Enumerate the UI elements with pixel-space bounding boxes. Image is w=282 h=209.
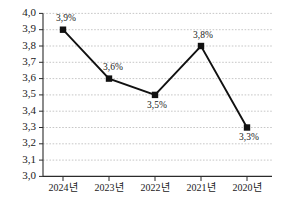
y-axis-label-3-1: 3,1 — [22, 153, 36, 165]
data-point-2020 — [244, 124, 250, 130]
y-axis-label-3-6: 3,6 — [22, 71, 36, 83]
data-label-2022: 3,5% — [147, 100, 167, 110]
x-axis-label-2021: 2021년 — [187, 182, 216, 193]
data-label-2020: 3,3% — [239, 132, 259, 142]
data-label-2024: 3,9% — [56, 13, 76, 23]
y-axis-label-3-8: 3,8 — [22, 39, 36, 51]
line-chart: 4,0 3,9 3,8 3,7 3,6 3,5 3,4 3,3 3,2 3,1 … — [0, 0, 282, 209]
x-axis-label-2020: 2020년 — [233, 182, 262, 193]
data-point-2021 — [198, 43, 204, 49]
data-label-2021: 3,8% — [193, 30, 213, 40]
y-axis-label-4-0: 4,0 — [22, 6, 36, 18]
y-axis-label-3-9: 3,9 — [22, 22, 36, 34]
chart-background — [0, 0, 282, 209]
data-label-2023: 3,6% — [103, 62, 123, 72]
x-axis-label-2024: 2024년 — [49, 182, 78, 193]
y-axis-label-3-0: 3,0 — [22, 169, 36, 181]
y-axis-label-3-7: 3,7 — [22, 55, 36, 67]
chart-canvas: 4,0 3,9 3,8 3,7 3,6 3,5 3,4 3,3 3,2 3,1 … — [0, 0, 282, 209]
y-axis-label-3-5: 3,5 — [22, 87, 36, 99]
x-axis-label-2023: 2023년 — [95, 182, 124, 193]
y-axis-label-3-4: 3,4 — [22, 104, 36, 116]
data-point-2023 — [106, 75, 112, 81]
y-axis-label-3-3: 3,3 — [22, 120, 36, 132]
y-axis-label-3-2: 3,2 — [22, 136, 36, 148]
x-axis-label-2022: 2022년 — [141, 182, 170, 193]
data-point-2024 — [60, 27, 66, 33]
data-point-2022 — [152, 92, 158, 98]
